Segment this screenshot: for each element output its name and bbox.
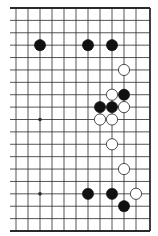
black-stone xyxy=(106,40,117,51)
black-stone xyxy=(82,40,93,51)
black-stone xyxy=(94,102,105,113)
star-point xyxy=(38,192,42,196)
black-stone xyxy=(34,40,45,51)
black-stone xyxy=(106,188,117,199)
white-stone xyxy=(106,139,117,150)
white-stone xyxy=(118,102,129,113)
white-stone xyxy=(106,114,117,125)
black-stone xyxy=(118,89,129,100)
white-stone xyxy=(118,64,129,75)
white-stone xyxy=(130,188,141,199)
white-stone xyxy=(94,114,105,125)
black-stone xyxy=(118,201,129,212)
black-stone xyxy=(82,188,93,199)
black-stone xyxy=(106,102,117,113)
go-board xyxy=(0,0,158,236)
white-stone xyxy=(118,163,129,174)
grid-lines xyxy=(10,8,150,231)
white-stone xyxy=(106,89,117,100)
star-point xyxy=(38,118,42,122)
